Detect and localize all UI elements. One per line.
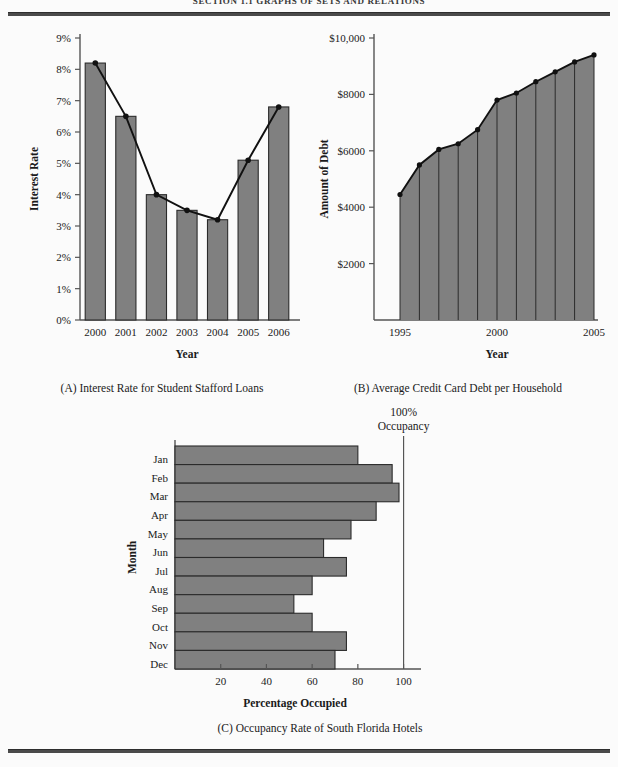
chart-b-y-tick-label: $2000 (338, 258, 366, 270)
chart-c-bar (175, 539, 324, 558)
chart-a-y-tick-label: 9% (56, 32, 71, 44)
chart-a-x-tick-label: 2000 (84, 326, 107, 338)
chart-b-data-point (591, 52, 596, 57)
chart-a-y-tick-label: 7% (56, 95, 71, 107)
chart-a-data-point (123, 114, 129, 120)
chart-c-y-tick-label: Mar (150, 490, 169, 502)
chart-a-data-point (215, 217, 221, 223)
chart-a-y-tick-label: 6% (56, 126, 71, 138)
chart-a-y-tick-label: 1% (56, 283, 71, 295)
chart-a-data-point (276, 104, 282, 110)
chart-c-bar (175, 595, 294, 614)
chart-a-x-tick-label: 2003 (176, 326, 199, 338)
caption-b: (B) Average Credit Card Debt per Househo… (308, 382, 608, 394)
chart-a-bar (269, 107, 289, 320)
chart-b-y-tick-label: $4000 (338, 201, 366, 213)
chart-c-x-tick-label: 40 (261, 675, 273, 687)
top-rule (8, 12, 610, 16)
chart-a-bar (116, 116, 136, 320)
chart-a-x-tick-label: 2005 (237, 326, 260, 338)
chart-a-bar (146, 195, 166, 320)
running-head: SECTION 1.1 GRAPHS OF SETS AND RELATIONS (0, 0, 618, 6)
chart-c-y-tick-label: Jun (153, 546, 169, 558)
chart-a-bar-line: 0%1%2%3%4%5%6%7%8%9%20002001200220032004… (22, 28, 302, 348)
chart-b-data-point (417, 162, 422, 167)
chart-a-y-tick-label: 0% (56, 314, 71, 326)
chart-b-y-tick-label: $8000 (338, 88, 366, 100)
chart-b-x-tick-label: 2005 (583, 326, 606, 338)
chart-b-x-tick-label: 2000 (486, 326, 509, 338)
chart-c-x-tick-label: 100 (395, 675, 412, 687)
chart-b-data-point (397, 192, 402, 197)
chart-a-bar (177, 210, 197, 320)
chart-c-annotation-line1: 100% (390, 406, 417, 418)
chart-c-bar (175, 520, 351, 539)
chart-c-y-tick-label: Aug (149, 583, 168, 595)
chart-c-bar (175, 650, 335, 669)
chart-c-bar (175, 483, 399, 502)
chart-a-y-tick-label: 3% (56, 220, 71, 232)
chart-c-x-tick-label: 60 (307, 675, 319, 687)
chart-a-x-axis-title: Year (176, 348, 199, 360)
chart-c-y-tick-label: Dec (150, 658, 168, 670)
chart-c-x-tick-label: 80 (352, 675, 364, 687)
chart-c-y-tick-label: Apr (151, 509, 168, 521)
chart-c-y-tick-label: Jan (153, 453, 168, 465)
chart-a-bar (207, 220, 227, 320)
chart-c-x-axis-title: Percentage Occupied (243, 697, 347, 710)
chart-a-bar (85, 63, 105, 320)
chart-b-x-tick-label: 1995 (389, 326, 412, 338)
chart-c-hbar: 100%OccupancyJanFebMarAprMayJunJulAugSep… (120, 404, 520, 714)
figure-page: SECTION 1.1 GRAPHS OF SETS AND RELATIONS… (0, 0, 618, 767)
chart-c-bar (175, 465, 392, 484)
chart-c-bar (175, 576, 312, 595)
panel-c: 100%OccupancyJanFebMarAprMayJunJulAugSep… (120, 404, 520, 714)
chart-c-y-tick-label: Sep (152, 602, 169, 614)
chart-c-x-tick-label: 20 (215, 675, 227, 687)
chart-a-data-point (245, 157, 251, 163)
chart-b-data-point (553, 69, 558, 74)
chart-b-y-axis-title: Amount of Debt (318, 139, 330, 218)
chart-b-data-point (533, 79, 538, 84)
chart-b-data-point (572, 59, 577, 64)
chart-a-y-tick-label: 2% (56, 251, 71, 263)
chart-a-x-tick-label: 2002 (145, 326, 167, 338)
chart-c-bar (175, 446, 358, 465)
chart-b-y-tick-label: $10,000 (329, 32, 365, 44)
chart-c-bar (175, 613, 312, 632)
chart-a-data-point (154, 192, 160, 198)
chart-c-y-axis-title: Month (126, 540, 138, 574)
chart-b-data-point (514, 90, 519, 95)
panel-b: $2000$4000$6000$8000$10,000199520002005Y… (312, 28, 604, 348)
chart-a-data-point (92, 60, 98, 66)
bottom-rule (8, 749, 610, 753)
caption-c: (C) Occupancy Rate of South Florida Hote… (120, 722, 520, 734)
chart-b-area: $2000$4000$6000$8000$10,000199520002005Y… (312, 28, 604, 348)
chart-c-y-tick-label: Jul (155, 565, 168, 577)
chart-b-data-point (494, 97, 499, 102)
chart-a-x-tick-label: 2001 (115, 326, 137, 338)
chart-a-y-tick-label: 4% (56, 189, 71, 201)
chart-a-bar (238, 160, 258, 320)
chart-a-data-point (184, 208, 190, 214)
chart-b-x-axis-title: Year (486, 348, 509, 360)
chart-c-bar (175, 502, 376, 521)
chart-c-y-tick-label: Nov (149, 639, 168, 651)
chart-b-data-point (456, 141, 461, 146)
chart-a-x-tick-label: 2004 (207, 326, 230, 338)
chart-c-annotation-line2: Occupancy (378, 420, 430, 433)
chart-a-y-tick-label: 5% (56, 157, 71, 169)
chart-a-y-axis-title: Interest Rate (28, 147, 40, 211)
chart-c-y-tick-label: Oct (152, 621, 168, 633)
chart-c-bar (175, 558, 346, 577)
caption-a: (A) Interest Rate for Student Stafford L… (22, 382, 302, 394)
chart-c-bar (175, 632, 346, 651)
chart-a-y-tick-label: 8% (56, 63, 71, 75)
chart-b-data-point (436, 147, 441, 152)
chart-b-data-point (475, 127, 480, 132)
panel-a: 0%1%2%3%4%5%6%7%8%9%20002001200220032004… (22, 28, 302, 348)
chart-a-x-tick-label: 2006 (268, 326, 291, 338)
chart-b-y-tick-label: $6000 (338, 145, 366, 157)
chart-c-y-tick-label: May (148, 528, 169, 540)
chart-c-y-tick-label: Feb (152, 472, 169, 484)
